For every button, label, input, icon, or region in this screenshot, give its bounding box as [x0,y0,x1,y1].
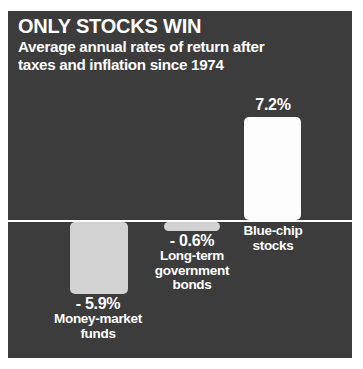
bar-long-term-government-bonds[interactable] [164,222,220,231]
bar-group-blue-chip-stocks: 7.2% Blue-chip stocks [213,11,333,358]
category-label-blue-chip-stocks: Blue-chip stocks [213,224,333,253]
chart-figure: ONLY STOCKS WIN Average annual rates of … [0,0,363,369]
category-label-line-2: stocks [213,239,333,254]
value-label-blue-chip-stocks: 7.2% [213,96,333,114]
bar-money-market-funds[interactable] [70,222,128,294]
chart-plot-area: - 5.9% Money-market funds - 0.6% Long-te… [8,11,352,358]
category-label-line-1: Blue-chip [213,224,333,239]
chart-panel: ONLY STOCKS WIN Average annual rates of … [8,11,352,358]
bar-blue-chip-stocks[interactable] [244,117,301,220]
